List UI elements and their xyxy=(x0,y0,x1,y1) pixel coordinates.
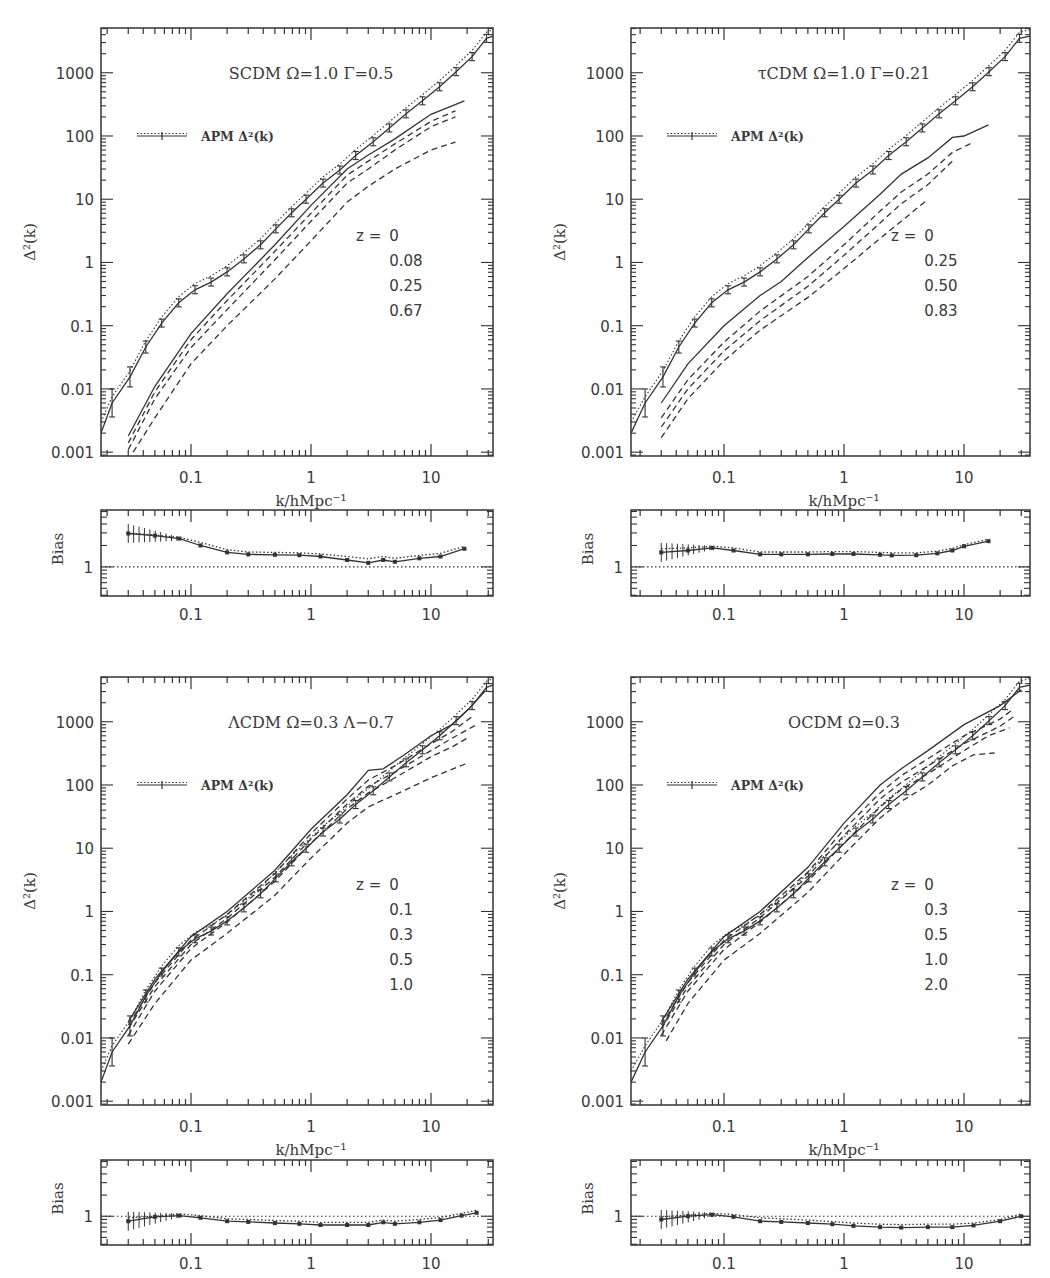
y-tick-label: 1000 xyxy=(586,65,624,83)
bias-marker xyxy=(366,1223,370,1227)
y-axis-title: Δ²(k) xyxy=(21,872,39,910)
panel-tcdm: 0.111010001001010.10.010.001Δ²(k)k/hMpc⁻… xyxy=(551,28,1030,510)
bias-marker xyxy=(878,1225,882,1229)
x-tick-label: 10 xyxy=(954,606,973,624)
bias-marker xyxy=(878,553,882,557)
model-curve-z0 xyxy=(128,692,484,1022)
apm-dotted-curve xyxy=(101,30,493,422)
bias-marker xyxy=(319,554,323,558)
x-tick-label: 1 xyxy=(306,606,316,624)
z-label-value: 0.25 xyxy=(389,277,422,295)
y-tick-label: 0.001 xyxy=(51,444,94,462)
y-tick-label: 0.01 xyxy=(591,1030,624,1048)
x-tick-label: 1 xyxy=(306,1255,316,1273)
bias-marker xyxy=(950,1225,954,1229)
z-label-prefix: z = xyxy=(891,227,916,245)
z-label-value: 0.08 xyxy=(389,252,422,270)
y-tick-label: 1 xyxy=(614,903,624,921)
z-label-value: 0 xyxy=(924,227,934,245)
x-tick-label: 0.1 xyxy=(179,469,203,487)
bias-panel-ocdm: 0.11101Bias xyxy=(579,1160,1030,1273)
x-tick-label: 1 xyxy=(839,469,849,487)
x-axis-title: k/hMpc⁻¹ xyxy=(808,492,879,510)
x-tick-label: 1 xyxy=(306,1118,316,1136)
bias-marker xyxy=(830,552,834,556)
y-tick-label: 100 xyxy=(595,777,624,795)
bias-marker xyxy=(297,553,301,557)
x-tick-label: 10 xyxy=(954,1255,973,1273)
y-axis-title: Δ²(k) xyxy=(21,223,39,261)
bias-marker xyxy=(439,554,443,558)
bias-axis-title: Bias xyxy=(49,1182,67,1214)
bias-marker xyxy=(273,1221,277,1225)
bias-marker xyxy=(319,1223,323,1227)
bias-marker xyxy=(345,558,349,562)
apm-solid-curve xyxy=(101,36,493,433)
y-tick-label: 1 xyxy=(84,903,94,921)
x-tick-label: 1 xyxy=(839,1118,849,1136)
bias-marker xyxy=(475,1211,479,1215)
bias-marker xyxy=(830,1222,834,1226)
z-label-value: 0.1 xyxy=(389,901,413,919)
y-tick-label: 1 xyxy=(614,254,624,272)
x-tick-label: 10 xyxy=(954,469,973,487)
y-tick-label: 10 xyxy=(75,840,94,858)
y-tick-label: 0.1 xyxy=(70,318,94,336)
y-tick-label: 100 xyxy=(65,128,94,146)
legend-label: APM Δ²(k) xyxy=(200,778,274,793)
apm-solid-curve xyxy=(631,36,1030,433)
y-tick-label: 0.01 xyxy=(591,381,624,399)
z-label-value: 0.50 xyxy=(924,277,957,295)
x-tick-label: 1 xyxy=(839,606,849,624)
model-curve-z050 xyxy=(661,161,952,427)
x-tick-label: 0.1 xyxy=(712,1255,736,1273)
y-tick-label: 1 xyxy=(84,254,94,272)
z-label-prefix: z = xyxy=(356,876,381,894)
x-axis-title: k/hMpc⁻¹ xyxy=(275,1141,346,1159)
x-tick-label: 10 xyxy=(421,1255,440,1273)
bias-marker xyxy=(225,1219,229,1223)
x-tick-label: 10 xyxy=(954,1118,973,1136)
x-tick-label: 0.1 xyxy=(712,606,736,624)
z-label-value: 0.83 xyxy=(924,302,957,320)
plot-frame xyxy=(631,677,1030,1105)
bias-marker xyxy=(899,1226,903,1230)
bias-marker xyxy=(199,1216,203,1220)
y-tick-label: 1000 xyxy=(56,714,94,732)
bias-marker xyxy=(126,1219,130,1223)
y-tick-label: 10 xyxy=(605,840,624,858)
bias-y-tick-label: 1 xyxy=(613,1208,623,1226)
apm-solid-curve xyxy=(631,685,1030,1082)
x-tick-label: 0.1 xyxy=(179,1118,203,1136)
bias-marker xyxy=(972,1223,976,1227)
model-curve-z20 xyxy=(666,753,994,1041)
bias-marker xyxy=(199,543,203,547)
legend-label: APM Δ²(k) xyxy=(200,129,274,144)
z-label-prefix: z = xyxy=(356,227,381,245)
model-curve-z10 xyxy=(128,763,467,1044)
bias-marker xyxy=(381,558,385,562)
bias-axis-title: Bias xyxy=(49,533,67,565)
z-label-value: 1.0 xyxy=(389,976,413,994)
bias-marker xyxy=(345,1223,349,1227)
bias-frame xyxy=(101,1160,493,1245)
bias-marker xyxy=(393,560,397,564)
bias-marker xyxy=(852,552,856,556)
y-tick-label: 0.1 xyxy=(600,318,624,336)
panel-title: τCDM Ω=1.0 Γ=0.21 xyxy=(758,64,931,83)
z-label-value: 0.25 xyxy=(924,252,957,270)
y-tick-label: 0.001 xyxy=(581,1093,624,1111)
bias-y-tick-label: 1 xyxy=(613,559,623,577)
model-curve-z03 xyxy=(661,709,1014,1025)
model-curve-z067 xyxy=(133,142,455,452)
bias-y-tick-label: 1 xyxy=(83,559,93,577)
y-tick-label: 100 xyxy=(595,128,624,146)
bias-panel-lcdm: 0.11101Bias xyxy=(49,1160,493,1273)
z-label-value: 0.5 xyxy=(389,951,413,969)
y-tick-label: 1000 xyxy=(586,714,624,732)
x-tick-label: 1 xyxy=(839,1255,849,1273)
x-axis-title: k/hMpc⁻¹ xyxy=(275,492,346,510)
y-axis-title: Δ²(k) xyxy=(551,223,569,261)
z-label-value: 0 xyxy=(389,876,399,894)
z-label-value: 0.5 xyxy=(924,926,948,944)
